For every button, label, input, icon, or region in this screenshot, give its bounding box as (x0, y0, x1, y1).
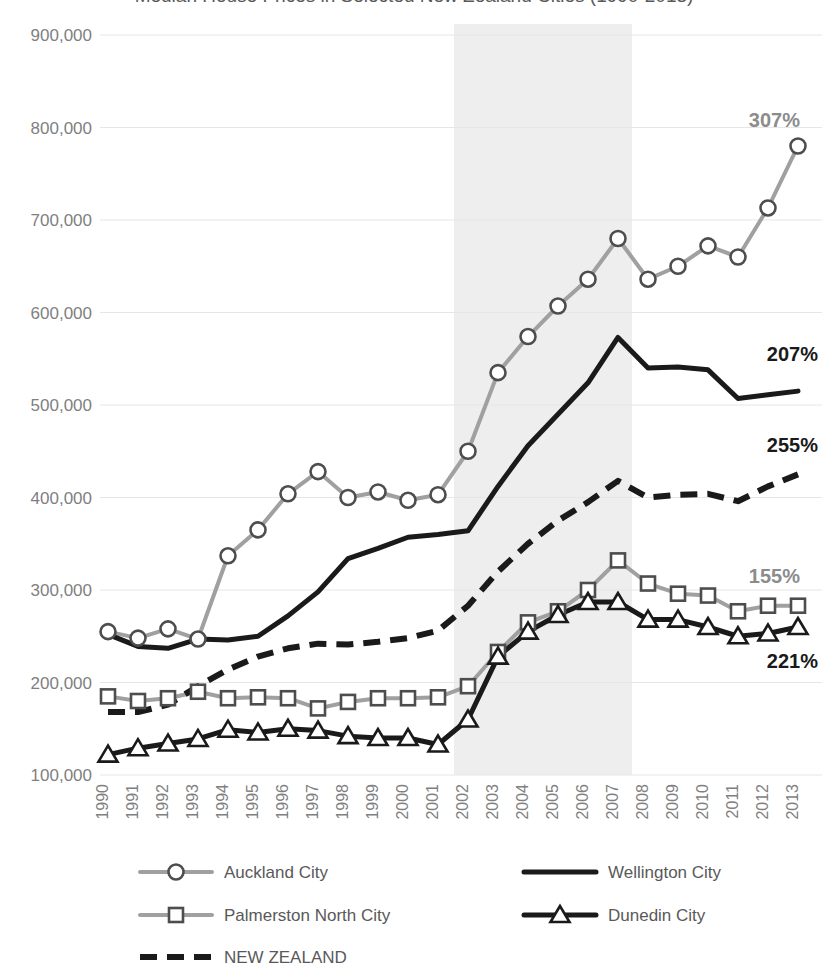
data-marker-square (401, 691, 415, 705)
data-marker-circle (221, 548, 236, 563)
data-marker-circle (761, 200, 776, 215)
series-end-label-wellington-city: 207% (767, 343, 818, 365)
y-axis-tick-label: 100,000 (31, 766, 92, 785)
x-axis-tick-label: 1993 (184, 784, 201, 820)
x-axis-tick-labels: 1990199119921993199419951996199719981999… (94, 784, 801, 820)
data-marker-circle (581, 272, 596, 287)
data-marker-square (641, 577, 655, 591)
chart-legend: Auckland CityWellington CityPalmerston N… (140, 863, 722, 967)
series-end-label-auckland-city: 307% (749, 109, 800, 131)
y-axis-tick-label: 700,000 (31, 211, 92, 230)
x-axis-tick-label: 2008 (634, 784, 651, 820)
series-line-palmerston-north-city (108, 560, 798, 708)
x-axis-tick-label: 2009 (664, 784, 681, 820)
data-marker-circle (521, 329, 536, 344)
legend-swatch-marker (169, 865, 184, 880)
data-marker-circle (731, 250, 746, 265)
data-marker-square (191, 685, 205, 699)
y-axis-tick-label: 900,000 (31, 26, 92, 45)
x-axis-tick-label: 2007 (604, 784, 621, 820)
data-marker-square (761, 599, 775, 613)
data-marker-square (101, 689, 115, 703)
x-axis-tick-label: 2010 (694, 784, 711, 820)
x-axis-tick-label: 1995 (244, 784, 261, 820)
data-marker-square (131, 694, 145, 708)
x-axis-tick-label: 2002 (454, 784, 471, 820)
legend-label: NEW ZEALAND (224, 948, 347, 967)
x-axis-tick-label: 1994 (214, 784, 231, 820)
data-marker-layer (99, 139, 808, 762)
x-axis-tick-label: 1999 (364, 784, 381, 820)
line-chart: 100,000200,000300,000400,000500,000600,0… (0, 0, 829, 979)
chart-title: Median House Prices in Selected New Zeal… (135, 0, 694, 6)
data-marker-circle (161, 621, 176, 636)
legend-label: Auckland City (224, 863, 328, 882)
data-marker-circle (341, 490, 356, 505)
x-axis-tick-label: 2012 (754, 784, 771, 820)
x-axis-tick-label: 1991 (124, 784, 141, 820)
highlight-band-layer (454, 24, 632, 775)
legend-item-new-zealand[interactable]: NEW ZEALAND (140, 948, 347, 967)
data-marker-square (731, 604, 745, 618)
data-marker-circle (311, 464, 326, 479)
x-axis-tick-label: 2011 (724, 784, 741, 819)
x-axis-tick-label: 2005 (544, 784, 561, 820)
data-series-layer (108, 146, 798, 755)
data-marker-square (461, 679, 475, 693)
x-axis-tick-label: 1998 (334, 784, 351, 820)
series-end-label-palmerston-north-city: 155% (749, 565, 800, 587)
data-marker-circle (371, 484, 386, 499)
data-marker-circle (101, 624, 116, 639)
legend-item-palmerston-north-city[interactable]: Palmerston North City (140, 906, 391, 925)
data-marker-circle (701, 238, 716, 253)
data-marker-circle (401, 493, 416, 508)
y-axis-tick-label: 300,000 (31, 581, 92, 600)
data-marker-circle (611, 231, 626, 246)
data-marker-square (221, 691, 235, 705)
data-marker-square (431, 690, 445, 704)
y-axis-tick-label: 500,000 (31, 396, 92, 415)
data-marker-circle (191, 632, 206, 647)
series-end-label-dunedin-city: 221% (767, 650, 818, 672)
data-marker-square (161, 691, 175, 705)
data-marker-square (611, 553, 625, 567)
y-axis-tick-label: 200,000 (31, 674, 92, 693)
data-marker-circle (641, 272, 656, 287)
x-axis-tick-label: 1992 (154, 784, 171, 820)
data-marker-circle (551, 299, 566, 314)
data-marker-square (341, 695, 355, 709)
y-axis-tick-label: 400,000 (31, 489, 92, 508)
highlight-band (454, 24, 632, 775)
legend-label: Wellington City (608, 863, 722, 882)
data-marker-circle (491, 365, 506, 380)
x-axis-tick-label: 2001 (424, 784, 441, 820)
data-marker-square (701, 589, 715, 603)
chart-container: 100,000200,000300,000400,000500,000600,0… (0, 0, 829, 979)
data-marker-circle (251, 522, 266, 537)
legend-swatch-marker (169, 908, 183, 922)
data-marker-square (371, 691, 385, 705)
x-axis-tick-label: 1996 (274, 784, 291, 820)
y-axis-tick-label: 800,000 (31, 119, 92, 138)
legend-item-dunedin-city[interactable]: Dunedin City (524, 906, 706, 925)
data-marker-square (311, 701, 325, 715)
data-marker-circle (431, 487, 446, 502)
x-axis-tick-label: 1990 (94, 784, 111, 820)
data-marker-square (791, 599, 805, 613)
x-axis-tick-label: 2003 (484, 784, 501, 820)
legend-label: Palmerston North City (224, 906, 391, 925)
legend-item-wellington-city[interactable]: Wellington City (524, 863, 722, 882)
data-marker-square (671, 587, 685, 601)
series-end-label-new-zealand: 255% (767, 434, 818, 456)
y-axis-tick-label: 600,000 (31, 304, 92, 323)
data-marker-circle (131, 631, 146, 646)
legend-item-auckland-city[interactable]: Auckland City (140, 863, 328, 882)
data-marker-circle (671, 259, 686, 274)
data-marker-circle (281, 486, 296, 501)
x-axis-tick-label: 2013 (784, 784, 801, 820)
chart-title-text: Median House Prices in Selected New Zeal… (135, 0, 694, 6)
y-axis-tick-labels: 100,000200,000300,000400,000500,000600,0… (31, 26, 92, 785)
x-axis-tick-label: 2006 (574, 784, 591, 820)
legend-label: Dunedin City (608, 906, 706, 925)
x-axis-tick-label: 1997 (304, 784, 321, 820)
